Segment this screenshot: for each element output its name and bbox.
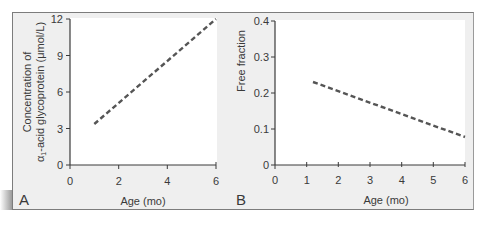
y-tick-b: 0.3 <box>254 51 269 63</box>
plot-area-a <box>70 18 217 165</box>
y-axis-label-b: Free fraction <box>235 30 247 92</box>
x-tick-b: 6 <box>462 174 468 186</box>
x-tick-b: 0 <box>272 174 278 186</box>
y-tick-a: 0 <box>57 159 63 171</box>
y-axis-label-a-line2: α1-acid glycoprotein (μmol/L) <box>34 22 47 162</box>
y-tick-b: 0 <box>263 159 269 171</box>
x-tick-b: 5 <box>430 174 436 186</box>
x-axis-label-b: Age (mo) <box>363 194 408 206</box>
x-tick-b: 1 <box>304 174 310 186</box>
panel-label-b: B <box>236 191 246 208</box>
x-tick-b: 3 <box>367 174 373 186</box>
y-tick-a: 9 <box>57 50 63 62</box>
x-tick-b: 2 <box>335 174 341 186</box>
y-tick-b: 0.2 <box>254 87 269 99</box>
x-tick-a: 0 <box>67 175 73 187</box>
x-axis-label-a: Age (mo) <box>120 195 165 207</box>
panel-label-a: A <box>19 191 29 208</box>
y-tick-a: 3 <box>57 123 63 135</box>
y-tick-a: 12 <box>51 13 63 25</box>
y-axis-label-a-line1: Concentration of <box>21 51 33 133</box>
chart-b: 0 0.1 0.2 0.3 0.4 0 1 2 3 4 5 6 Age (mo) <box>235 15 468 208</box>
y-tick-b: 0.4 <box>254 15 269 27</box>
chart-a: 0 3 6 9 12 0 2 4 6 Age (mo) Concentratio… <box>19 13 219 208</box>
figure: 0 3 6 9 12 0 2 4 6 Age (mo) Concentratio… <box>0 0 487 225</box>
plot-area-b <box>275 20 465 165</box>
x-tick-a: 6 <box>213 175 219 187</box>
y-tick-b: 0.1 <box>254 123 269 135</box>
y-tick-a: 6 <box>57 86 63 98</box>
x-tick-a: 2 <box>116 175 122 187</box>
x-tick-b: 4 <box>399 174 405 186</box>
x-tick-a: 4 <box>164 175 170 187</box>
